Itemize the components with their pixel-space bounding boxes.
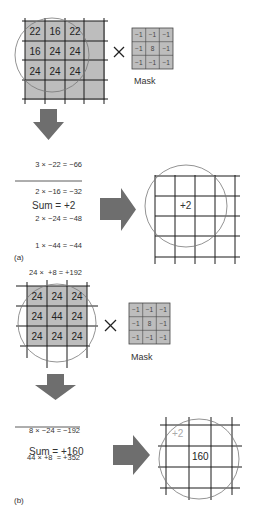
equation-line: 3 × −22 = −66 bbox=[12, 160, 82, 169]
cell-value: 22 bbox=[65, 21, 85, 41]
mask-value: 8 bbox=[146, 42, 160, 56]
cell-value: 44 bbox=[47, 306, 67, 326]
equation-line: 24 × +8 = +192 bbox=[12, 268, 82, 277]
right-arrow-icon bbox=[100, 188, 136, 231]
equation-line: 1 × −44 = −44 bbox=[12, 241, 82, 250]
cell-value: 24 bbox=[27, 326, 47, 346]
equation-line: 2 × −16 = −32 bbox=[12, 187, 82, 196]
panel-a-equations: 3 × −22 = −66 2 × −16 = −32 2 × −24 = −4… bbox=[12, 142, 82, 286]
panel-b-equations: 8 × −24 = −192 44 × +8 = +352 bbox=[12, 408, 80, 471]
panel-b-label: (b) bbox=[14, 496, 24, 505]
panel-a-mask-values: −1 −1 −1 −1 8 −1 −1 −1 −1 bbox=[132, 28, 173, 69]
multiply-icon bbox=[114, 47, 124, 57]
mask-value: −1 bbox=[129, 317, 143, 331]
cell-value: 24 bbox=[27, 286, 47, 306]
cell-value: 24 bbox=[65, 61, 85, 81]
mask-value: −1 bbox=[146, 28, 160, 42]
panel-b-mask-label: Mask bbox=[131, 352, 153, 362]
mask-value: −1 bbox=[146, 55, 160, 69]
cell-value: 24 bbox=[67, 286, 87, 306]
panel-a-input-values: 22 16 22 16 24 24 24 24 24 bbox=[25, 21, 84, 80]
right-arrow-icon bbox=[113, 435, 150, 475]
mask-value: −1 bbox=[159, 42, 173, 56]
down-arrow-icon bbox=[33, 109, 64, 140]
panel-a-result-grid bbox=[155, 175, 240, 264]
mask-value: −1 bbox=[156, 303, 170, 317]
mask-value: −1 bbox=[129, 303, 143, 317]
equation-line: 8 × −24 = −192 bbox=[12, 426, 80, 435]
multiply-icon bbox=[105, 320, 116, 331]
cell-value: 24 bbox=[25, 61, 45, 81]
cell-value: 24 bbox=[65, 41, 85, 61]
mask-value: −1 bbox=[132, 42, 146, 56]
panel-a-mask-label: Mask bbox=[134, 76, 156, 86]
mask-value: −1 bbox=[156, 330, 170, 344]
cell-value: 24 bbox=[47, 286, 67, 306]
cell-value: 24 bbox=[67, 326, 87, 346]
panel-a-result-value: +2 bbox=[180, 200, 191, 211]
cell-value: 24 bbox=[27, 306, 47, 326]
mask-value: −1 bbox=[143, 330, 157, 344]
mask-value: 8 bbox=[143, 317, 157, 331]
cell-value: 24 bbox=[45, 41, 65, 61]
panel-a-sum: Sum = +2 bbox=[32, 200, 75, 211]
panel-b-prior-value: +2 bbox=[172, 428, 183, 439]
equation-line: 2 × −24 = −48 bbox=[12, 214, 82, 223]
panel-b-mask-values: −1 −1 −1 −1 8 −1 −1 −1 −1 bbox=[129, 303, 170, 344]
mask-value: −1 bbox=[132, 55, 146, 69]
cell-value: 24 bbox=[67, 306, 87, 326]
down-arrow-icon bbox=[35, 374, 76, 400]
panel-b-input-values: 24 24 24 24 44 24 24 24 24 bbox=[27, 286, 87, 346]
mask-value: −1 bbox=[129, 330, 143, 344]
cell-value: 24 bbox=[47, 326, 67, 346]
mask-value: −1 bbox=[159, 28, 173, 42]
cell-value: 24 bbox=[45, 61, 65, 81]
cell-value: 16 bbox=[25, 41, 45, 61]
panel-b-result-value: 160 bbox=[192, 451, 209, 462]
panel-b-sum: Sum = +160 bbox=[29, 446, 83, 457]
mask-value: −1 bbox=[156, 317, 170, 331]
mask-value: −1 bbox=[143, 303, 157, 317]
mask-value: −1 bbox=[132, 28, 146, 42]
mask-value: −1 bbox=[159, 55, 173, 69]
panel-a-label: (a) bbox=[14, 253, 24, 262]
cell-value: 22 bbox=[25, 21, 45, 41]
cell-value: 16 bbox=[45, 21, 65, 41]
